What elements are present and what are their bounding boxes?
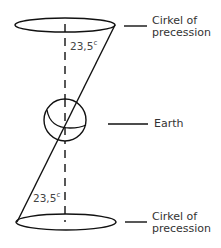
angle-top-unit: c	[93, 39, 97, 47]
label-bottom-circle: Cirkel of precession	[152, 211, 211, 235]
angle-bottom-unit: c	[56, 191, 60, 199]
label-top-circle: Cirkel of precession	[152, 15, 211, 39]
bottom-precession-ellipse	[16, 214, 116, 230]
label-earth: Earth	[154, 118, 184, 130]
label-top-line2: precession	[152, 27, 211, 39]
angle-top-value: 23,5	[70, 40, 93, 52]
angle-label-bottom: 23,5c	[33, 191, 60, 204]
label-bottom-line2: precession	[152, 223, 211, 235]
tilted-earth-axis	[17, 25, 115, 222]
angle-label-top: 23,5c	[70, 39, 97, 52]
angle-bottom-value: 23,5	[33, 192, 56, 204]
